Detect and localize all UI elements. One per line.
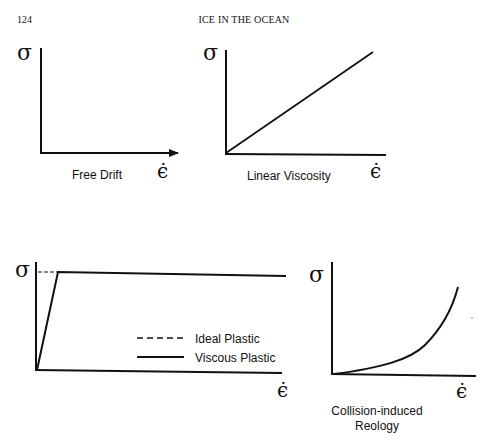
panel-label: Linear Viscosity [247, 169, 331, 183]
panel-label: Free Drift [72, 168, 123, 182]
sigma-label: σ [203, 40, 218, 65]
panel-collision-induced: σ ϵ̇ Collision-induced Reology [309, 262, 476, 433]
panel-free-drift: σ Free Drift ϵ̇ [17, 40, 178, 183]
panel-linear-viscosity: σ Linear Viscosity ϵ̇ [203, 40, 386, 183]
sigma-label: σ [15, 257, 30, 282]
legend: Ideal Plastic Viscous Plastic [137, 332, 275, 365]
panel-label-line2: Reology [355, 419, 399, 433]
epsilon-dot-label: ϵ̇ [370, 159, 381, 183]
epsilon-dot-label: ϵ̇ [277, 378, 288, 402]
speck [471, 317, 473, 319]
legend-viscous-plastic: Viscous Plastic [195, 351, 275, 365]
x-axis [35, 370, 282, 373]
linear-curve [226, 52, 373, 153]
panel-label-line1: Collision-induced [331, 404, 422, 418]
x-axis [225, 154, 386, 155]
epsilon-dot-label: ϵ̇ [157, 159, 168, 183]
sigma-label: σ [309, 262, 324, 287]
x-axis [331, 374, 476, 376]
figure: σ Free Drift ϵ̇ σ Linear Viscosity ϵ̇ σ … [0, 0, 488, 442]
panel-plastic: σ Ideal Plastic Viscous Plastic ϵ̇ [15, 257, 288, 402]
collision-curve [334, 287, 458, 374]
epsilon-dot-label: ϵ̇ [456, 379, 467, 403]
sigma-label: σ [17, 40, 32, 65]
legend-ideal-plastic: Ideal Plastic [195, 332, 260, 346]
